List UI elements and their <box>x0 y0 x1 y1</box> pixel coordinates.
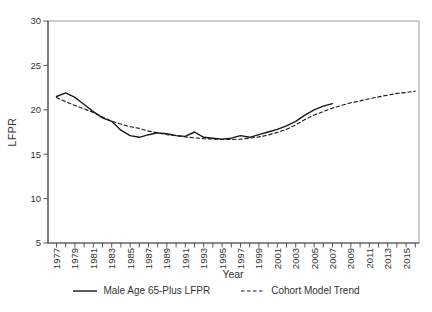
legend-label: Male Age 65-Plus LFPR <box>103 285 210 296</box>
male-lfpr-line <box>57 93 333 139</box>
x-axis-ticks: 1977197919811983198519871989199119931995… <box>51 243 415 269</box>
x-tick-label: 2009 <box>345 248 356 269</box>
x-tick-label: 2013 <box>382 248 393 269</box>
legend-item-cohort-trend: Cohort Model Trend <box>240 285 359 296</box>
x-tick-label: 1997 <box>235 248 246 269</box>
cohort-trend-line <box>57 91 416 139</box>
x-tick-label: 2003 <box>290 248 301 269</box>
y-tick-label: 20 <box>30 104 41 115</box>
x-tick-label: 2001 <box>272 248 283 269</box>
x-tick-label: 1987 <box>143 248 154 269</box>
x-tick-label: 1985 <box>125 248 136 269</box>
y-tick-label: 25 <box>30 60 41 71</box>
y-axis-title: LFPR <box>6 118 18 147</box>
solid-line-sample-icon <box>72 288 98 294</box>
x-tick-label: 1999 <box>253 248 264 269</box>
x-tick-label: 1993 <box>198 248 209 269</box>
y-tick-label: 15 <box>30 149 41 160</box>
x-tick-label: 2005 <box>309 248 320 269</box>
y-axis-ticks: 51015202530 <box>30 15 48 248</box>
x-tick-label: 1991 <box>180 248 191 269</box>
legend: Male Age 65-Plus LFPRCohort Model Trend <box>0 285 432 296</box>
x-tick-label: 1981 <box>88 248 99 269</box>
dashed-line-sample-icon <box>240 288 266 294</box>
y-tick-label: 5 <box>36 237 41 248</box>
x-axis-title: Year <box>222 268 243 280</box>
legend-item-male-lfpr: Male Age 65-Plus LFPR <box>72 285 210 296</box>
x-tick-label: 2007 <box>327 248 338 269</box>
legend-label: Cohort Model Trend <box>271 285 359 296</box>
lfpr-chart-figure: 5101520253019771979198119831985198719891… <box>0 0 432 312</box>
y-tick-label: 10 <box>30 193 41 204</box>
x-tick-label: 1977 <box>51 248 62 269</box>
x-tick-label: 2015 <box>401 248 412 269</box>
x-tick-label: 1979 <box>69 248 80 269</box>
x-tick-label: 1995 <box>217 248 228 269</box>
x-tick-label: 1989 <box>161 248 172 269</box>
x-tick-label: 2011 <box>364 248 375 268</box>
y-tick-label: 30 <box>30 15 41 26</box>
x-tick-label: 1983 <box>106 248 117 269</box>
plot-border <box>48 21 419 243</box>
chart-canvas: 5101520253019771979198119831985198719891… <box>0 0 432 312</box>
